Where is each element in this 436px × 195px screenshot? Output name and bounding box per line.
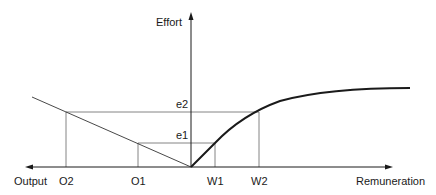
x-axis-left-label: Output (14, 175, 47, 187)
o1-label: O1 (131, 175, 146, 187)
arrow-up-icon (189, 12, 194, 20)
arrow-right-icon (385, 165, 393, 170)
w2-label: W2 (251, 175, 268, 187)
axes (30, 18, 388, 167)
y-axis-label: Effort (156, 16, 182, 28)
w1-label: W1 (207, 175, 224, 187)
remuneration-effort-curve (191, 88, 410, 167)
x-axis-right-label: Remuneration (356, 175, 425, 187)
guide-e2 (66, 112, 259, 167)
e2-label: e2 (176, 98, 188, 110)
arrow-left-icon (25, 165, 33, 170)
effort-remuneration-diagram: Effort e2 e1 Output O2 O1 W1 W2 Remunera… (0, 0, 436, 195)
guide-lines (66, 112, 259, 167)
e1-label: e1 (176, 129, 188, 141)
o2-label: O2 (59, 175, 74, 187)
output-effort-line (32, 97, 191, 167)
